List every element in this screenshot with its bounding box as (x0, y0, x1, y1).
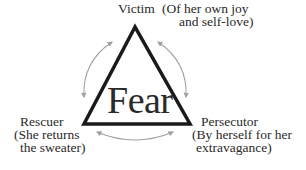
victim-note-line2: and self-love) (179, 15, 254, 28)
drama-triangle-diagram: Fear Victim (Of her own joy and self-lov… (0, 0, 306, 170)
center-label: Fear (107, 78, 173, 122)
arrow-rescuer-persecutor (97, 132, 173, 140)
rescuer-note-line2: the sweater) (20, 141, 86, 154)
persecutor-note-line2: extravagance) (196, 141, 272, 154)
victim-role-label: Victim (118, 2, 155, 15)
